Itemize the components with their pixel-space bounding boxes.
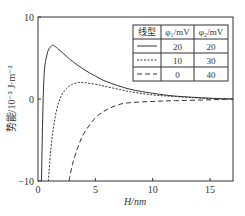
x-axis-label: H/nm (123, 196, 146, 207)
y-axis-label: 势能/10⁻⁵ J·m⁻² (5, 66, 17, 133)
y-tick-10: 10 (24, 12, 34, 23)
x-tick-0: 0 (36, 184, 41, 195)
y-axis: 10 0 −10 势能/10⁻⁵ J·m⁻² (5, 12, 41, 187)
legend-row2-phi1: 10 (173, 56, 183, 66)
x-tick-5: 5 (93, 184, 98, 195)
legend-header-phi2: φ₂/mV (199, 27, 224, 37)
potential-energy-chart: 10 0 −10 势能/10⁻⁵ J·m⁻² 0 5 10 15 H/nm 线型… (0, 0, 245, 216)
y-tick-0: 0 (29, 94, 34, 105)
legend-header-linetype: 线型 (138, 26, 156, 37)
series-line-dotted (48, 82, 233, 181)
x-axis: 0 5 10 15 H/nm (36, 178, 216, 207)
legend-row2-phi2: 30 (207, 56, 217, 66)
x-tick-10: 10 (148, 184, 158, 195)
y-tick-neg10: −10 (18, 176, 34, 187)
series-line-dashed (69, 99, 233, 181)
x-tick-15: 15 (205, 184, 215, 195)
legend-row3-phi1: 0 (175, 70, 180, 80)
legend-row1-phi1: 20 (173, 42, 183, 52)
legend-row1-phi2: 20 (207, 42, 217, 52)
legend-table: 线型 φ₁/mV φ₂/mV 20 20 10 30 0 40 (133, 25, 228, 81)
legend-row3-phi2: 40 (207, 70, 217, 80)
legend-header-phi1: φ₁/mV (165, 27, 190, 37)
